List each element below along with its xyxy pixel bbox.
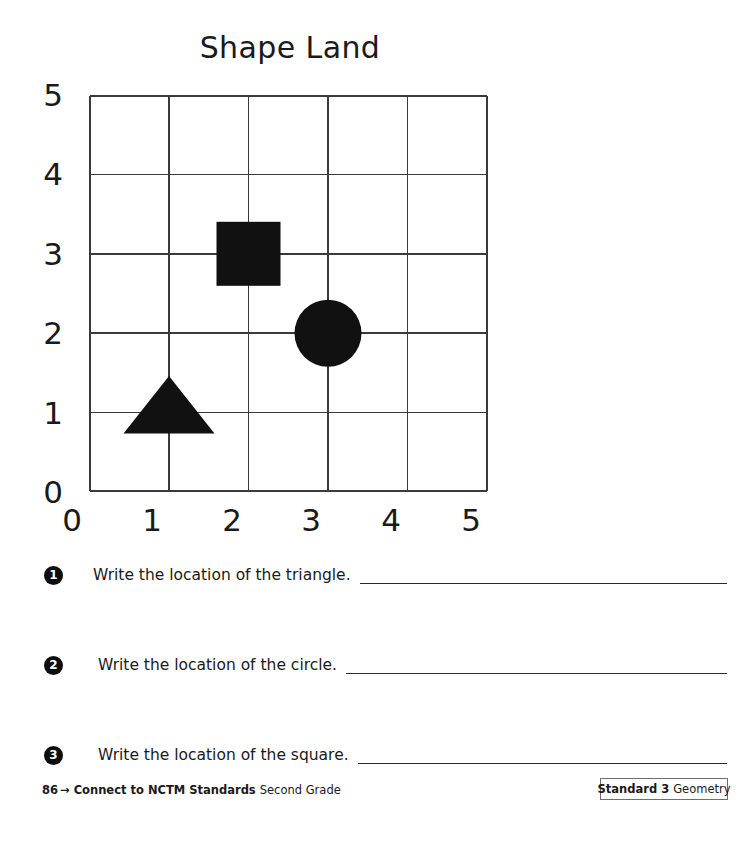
- question-text-3: Write the location of the square.: [98, 746, 349, 764]
- arrow-right-icon: →: [60, 783, 70, 797]
- question-item-2: 2 Write the location of the circle.: [44, 652, 727, 678]
- grade-level: Second Grade: [260, 783, 341, 797]
- y-axis-label-4: 4: [36, 159, 70, 190]
- question-number-badge-1: 1: [44, 566, 63, 585]
- question-item-1: 1 Write the location of the triangle.: [44, 562, 727, 588]
- question-number-badge-2: 2: [44, 656, 63, 675]
- question-text-2: Write the location of the circle.: [98, 656, 337, 674]
- book-title: Connect to NCTM Standards: [74, 783, 256, 797]
- x-axis-label-5: 5: [454, 505, 488, 536]
- shape-circle: [295, 300, 362, 367]
- question-number-badge-3: 3: [44, 746, 63, 765]
- x-axis-label-0: 0: [55, 505, 89, 536]
- answer-blank-3[interactable]: [358, 763, 727, 764]
- plotted-shapes: [89, 95, 488, 492]
- question-item-3: 3 Write the location of the square.: [44, 742, 727, 768]
- y-axis-label-3: 3: [36, 239, 70, 270]
- page-number: 86: [42, 783, 58, 797]
- standard-label: Standard 3: [598, 782, 670, 796]
- x-axis-label-4: 4: [374, 505, 408, 536]
- page-title: Shape Land: [0, 30, 580, 65]
- footer-attribution: 86→Connect to NCTM StandardsSecond Grade: [42, 783, 341, 797]
- coordinate-grid: [89, 95, 488, 492]
- shape-triangle: [124, 376, 215, 434]
- x-axis-label-2: 2: [215, 505, 249, 536]
- y-axis-label-1: 1: [36, 398, 70, 429]
- x-axis-label-1: 1: [135, 505, 169, 536]
- y-axis-label-2: 2: [36, 318, 70, 349]
- question-text-1: Write the location of the triangle.: [93, 566, 351, 584]
- standard-topic: Geometry: [673, 782, 730, 796]
- standard-badge: Standard 3Geometry: [600, 778, 728, 800]
- x-axis-label-3: 3: [294, 505, 328, 536]
- answer-blank-1[interactable]: [360, 583, 727, 584]
- y-axis-label-5: 5: [36, 80, 70, 111]
- answer-blank-2[interactable]: [346, 673, 727, 674]
- shape-square: [217, 222, 281, 286]
